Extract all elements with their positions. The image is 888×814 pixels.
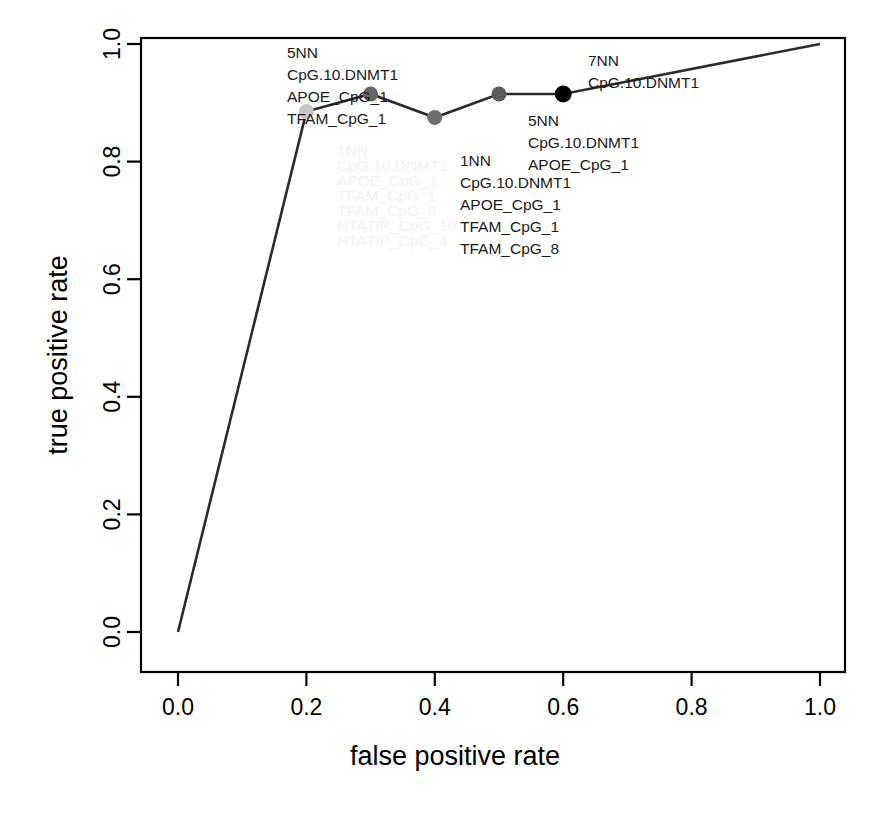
annotation-line-faint: HTATIP_CpG_4 (337, 232, 448, 249)
y-tick-label-3: 0.6 (99, 263, 125, 295)
x-axis-tick-labels: 0.0 0.2 0.4 0.6 0.8 1.0 (162, 694, 836, 720)
annotation-line: CpG.10.DNMT1 (287, 66, 398, 83)
roc-point-3 (492, 86, 507, 101)
annotation-line: TFAM_CpG_1 (287, 110, 386, 127)
roc-point-4 (555, 85, 572, 102)
annotation-line: APOE_CpG_1 (528, 156, 629, 173)
roc-plot-canvas: 0.0 0.2 0.4 0.6 0.8 1.0 0.0 0.2 0.4 0.6 … (0, 0, 888, 814)
annotation-1nn-faint: 1NN CpG.10.DNMT1 APOE_CpG_1 TFAM_CpG_1 T… (337, 142, 457, 249)
annotation-line: TFAM_CpG_1 (460, 218, 559, 235)
annotation-line: TFAM_CpG_8 (460, 240, 559, 257)
annotation-line: APOE_CpG_1 (287, 88, 388, 105)
annotation-line: 5NN (528, 112, 559, 129)
x-tick-label-0: 0.0 (162, 694, 194, 720)
y-axis-title: true positive rate (43, 255, 73, 455)
annotation-5nn-right: 5NN CpG.10.DNMT1 APOE_CpG_1 (528, 112, 639, 173)
roc-point-2 (427, 110, 442, 125)
y-tick-label-0: 0.0 (99, 616, 125, 648)
annotation-line: 7NN (588, 52, 619, 69)
x-tick-label-5: 1.0 (804, 694, 836, 720)
x-tick-label-4: 0.8 (676, 694, 708, 720)
annotation-line: CpG.10.DNMT1 (528, 134, 639, 151)
y-axis-ticks (127, 44, 141, 632)
x-tick-label-3: 0.6 (547, 694, 579, 720)
annotation-line: CpG.10.DNMT1 (588, 74, 699, 91)
roc-chart: 0.0 0.2 0.4 0.6 0.8 1.0 0.0 0.2 0.4 0.6 … (0, 0, 888, 814)
x-axis-title: false positive rate (350, 741, 560, 771)
y-tick-label-4: 0.8 (99, 146, 125, 178)
annotation-line: CpG.10.DNMT1 (460, 174, 571, 191)
y-tick-label-1: 0.2 (99, 498, 125, 530)
annotation-5nn-top: 5NN CpG.10.DNMT1 APOE_CpG_1 TFAM_CpG_1 (287, 44, 398, 127)
y-tick-label-5: 1.0 (99, 28, 125, 60)
roc-curve (178, 44, 820, 632)
x-tick-label-2: 0.4 (419, 694, 451, 720)
annotation-line: APOE_CpG_1 (460, 196, 561, 213)
y-tick-label-2: 0.4 (99, 381, 125, 413)
x-tick-label-1: 0.2 (290, 694, 322, 720)
annotation-line: 5NN (287, 44, 318, 61)
x-axis-ticks (178, 672, 820, 686)
annotation-line: 1NN (460, 152, 491, 169)
y-axis-tick-labels: 0.0 0.2 0.4 0.6 0.8 1.0 (99, 28, 125, 648)
